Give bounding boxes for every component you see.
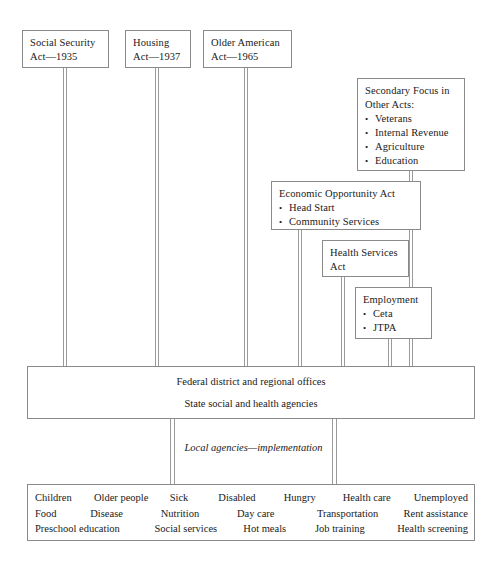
service-item: Transportation — [317, 506, 404, 522]
services-row-needs: Food Disease Nutrition Day care Transpor… — [35, 506, 468, 522]
service-item: Unemployed — [414, 490, 468, 506]
services-row-population: Children Older people Sick Disabled Hung… — [35, 490, 468, 506]
service-item: Job training — [315, 521, 397, 537]
service-item: Food — [35, 506, 90, 522]
local-agencies-label: Local agencies—implementation — [175, 442, 332, 453]
employment-list: Ceta JTPA — [363, 307, 424, 335]
local-agencies-channel-right — [332, 418, 337, 484]
act-title-older-american: Older American Act—1965 — [211, 36, 284, 64]
service-item: Preschool education — [35, 521, 154, 537]
services-row-programs: Preschool education Social services Hot … — [35, 521, 468, 537]
act-box-social-security: Social Security Act—1935 — [22, 30, 109, 68]
economic-opportunity-box: Economic Opportunity Act Head Start Comm… — [271, 181, 421, 230]
health-services-box: Health Services Act — [322, 240, 409, 277]
secondary-focus-title: Secondary Focus in Other Acts: — [365, 84, 457, 112]
list-item: Education — [365, 154, 457, 168]
connector-social-security — [63, 66, 67, 367]
health-services-title: Health Services Act — [330, 246, 401, 274]
connector-health-services — [341, 275, 345, 367]
connector-employment — [388, 338, 392, 367]
service-item: Disease — [90, 506, 160, 522]
economic-opportunity-title: Economic Opportunity Act — [279, 187, 413, 201]
list-item: Head Start — [279, 201, 413, 215]
service-item: Hungry — [284, 490, 343, 506]
connector-economic-opportunity — [298, 228, 302, 367]
state-agencies-label: State social and health agencies — [28, 398, 474, 409]
service-item: Nutrition — [161, 506, 237, 522]
service-item: Social services — [154, 521, 243, 537]
service-item: Hot meals — [243, 521, 315, 537]
service-item: Disabled — [218, 490, 283, 506]
employment-title: Employment — [363, 293, 424, 307]
service-item: Older people — [94, 490, 170, 506]
act-box-housing: Housing Act—1937 — [125, 30, 191, 68]
service-item: Sick — [170, 490, 219, 506]
act-title-social-security: Social Security Act—1935 — [30, 36, 101, 64]
list-item: Agriculture — [365, 140, 457, 154]
connector-older-american — [244, 66, 248, 367]
list-item: Veterans — [365, 112, 457, 126]
services-box: Children Older people Sick Disabled Hung… — [27, 484, 475, 541]
service-item: Health care — [343, 490, 414, 506]
service-item: Rent assistance — [404, 506, 468, 522]
federal-state-band: Federal district and regional offices St… — [27, 366, 475, 419]
act-box-older-american: Older American Act—1965 — [203, 30, 292, 68]
federal-offices-label: Federal district and regional offices — [28, 376, 474, 387]
list-item: Internal Revenue — [365, 126, 457, 140]
service-item: Health screening — [397, 521, 468, 537]
service-item: Day care — [237, 506, 317, 522]
connector-housing — [155, 66, 159, 367]
list-item: Community Services — [279, 215, 413, 229]
list-item: Ceta — [363, 307, 424, 321]
service-item: Children — [35, 490, 94, 506]
welfare-flow-diagram: Social Security Act—1935 Housing Act—193… — [0, 0, 501, 562]
list-item: JTPA — [363, 321, 424, 335]
act-title-housing: Housing Act—1937 — [133, 36, 183, 64]
economic-opportunity-list: Head Start Community Services — [279, 201, 413, 229]
secondary-focus-box: Secondary Focus in Other Acts: Veterans … — [357, 78, 465, 171]
secondary-focus-list: Veterans Internal Revenue Agriculture Ed… — [365, 112, 457, 168]
employment-box: Employment Ceta JTPA — [355, 287, 432, 339]
